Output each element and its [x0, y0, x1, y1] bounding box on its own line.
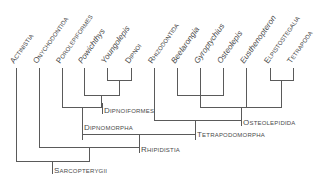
clade-label-dipnomorpha: DIPNOMORPHA — [84, 123, 133, 132]
clade-label-sarcopterygii: SARCOPTERYGII — [54, 166, 107, 175]
clade-label-osteolepidida: OSTEOLEPIDIDA — [243, 118, 296, 127]
taxon-label-dipnoi: DIPNOI — [123, 42, 143, 66]
clade-labels: DIPNOIFORMES DIPNOMORPHA OSTEOLEPIDIDA T… — [54, 103, 296, 175]
taxon-labels: ACTINISTIA ONYCHODONTIDA POROLEPIFORMES … — [8, 13, 314, 65]
clade-label-dipnoiformes: DIPNOIFORMES — [104, 106, 154, 115]
clade-label-tetrapodomorpha: TETRAPODOMORPHA — [197, 130, 265, 139]
cladogram: ACTINISTIA ONYCHODONTIDA POROLEPIFORMES … — [0, 0, 321, 180]
clade-label-rhipidistia: RHIPIDISTIA — [141, 145, 180, 154]
